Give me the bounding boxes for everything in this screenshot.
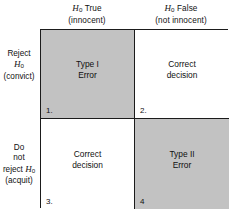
cell-number: 2.: [140, 106, 147, 115]
decision-table-figure: H0 True (innocent) H0 False (not innocen…: [0, 0, 230, 220]
row-header-reject-word: reject: [3, 165, 25, 174]
column-header-line-2: (innocent): [40, 16, 134, 27]
cell-label: Correct decision: [167, 59, 198, 81]
cell-type-ii-error[interactable]: Type II Error 4: [135, 119, 229, 209]
cell-number: 4: [140, 197, 144, 206]
cell-number: 1.: [46, 106, 53, 115]
cell-line-2: decision: [167, 70, 198, 81]
column-header-line-1: H0 False: [134, 3, 228, 16]
cell-correct-decision-bottom[interactable]: Correct decision 3.: [41, 119, 135, 209]
cell-line-2: Error: [169, 160, 194, 171]
cell-number: 3.: [46, 197, 53, 206]
row-header-line-4: (acquit): [0, 176, 39, 186]
decision-grid: Type I Error 1. Correct decision 2. Corr…: [40, 29, 228, 208]
cell-line-1: Correct: [72, 149, 103, 160]
row-header-reject-h0: Reject H0 (convict): [0, 49, 39, 82]
cell-line-2: decision: [72, 160, 103, 171]
column-header-line-2: (not innocent): [134, 16, 228, 27]
row-header-line-1: Do: [0, 143, 39, 153]
cell-label: Type II Error: [169, 149, 194, 171]
row-header-line-2: H0: [0, 59, 39, 72]
cell-line-2: Error: [76, 70, 99, 81]
column-header-h0-false: H0 False (not innocent): [134, 3, 228, 26]
cell-type-i-error[interactable]: Type I Error 1.: [41, 30, 135, 119]
h-subscript: 0: [21, 63, 24, 70]
row-header-line-1: Reject: [0, 49, 39, 59]
h-subscript: 0: [32, 167, 35, 174]
row-header-line-2: not: [0, 153, 39, 163]
row-header-line-3: (convict): [0, 72, 39, 82]
h-symbol: H: [72, 3, 79, 13]
row-header-line-3: reject H0: [0, 164, 39, 177]
cell-line-1: Type I: [76, 59, 99, 70]
column-header-suffix: True: [82, 4, 101, 13]
cell-label: Correct decision: [72, 149, 103, 171]
cell-line-1: Correct: [167, 59, 198, 70]
column-header-h0-true: H0 True (innocent): [40, 3, 134, 26]
cell-line-1: Type II: [169, 149, 194, 160]
column-header-suffix: False: [175, 4, 198, 13]
column-header-line-1: H0 True: [40, 3, 134, 16]
cell-correct-decision-top[interactable]: Correct decision 2.: [135, 30, 229, 119]
cell-label: Type I Error: [76, 59, 99, 81]
row-header-do-not-reject-h0: Do not reject H0 (acquit): [0, 143, 39, 187]
